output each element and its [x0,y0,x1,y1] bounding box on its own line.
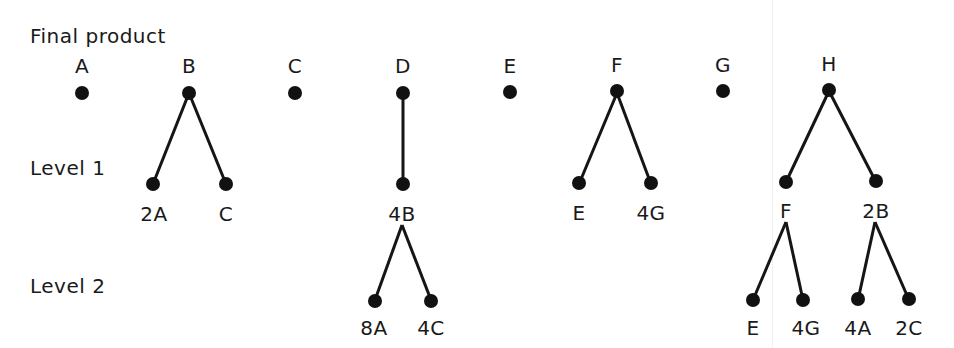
node-label-g: G [715,55,731,75]
edge-2b-4a [858,222,875,300]
edge-b-2a [153,93,189,184]
node-label-e-l2: E [746,318,759,338]
edge-4b-8a [375,225,402,300]
node-label-e: E [503,56,516,76]
node-label-d: D [395,56,411,76]
product-structure-tree: Final product Level 1 Level 2 A B C D E … [0,0,954,348]
node-dot-d [396,86,410,100]
node-label-e-l1: E [572,203,585,223]
node-dot-2b [869,174,883,188]
node-label-c: C [288,56,302,76]
node-label-4a: 4A [844,318,871,338]
node-label-b: B [182,56,196,76]
edge-f1-4g [786,222,803,300]
level-label-level-1: Level 1 [30,158,105,178]
node-label-a: A [75,56,89,76]
node-dot-e [503,85,517,99]
edge-h-f [786,91,829,182]
node-label-4c: 4C [417,318,445,338]
edge-4b-4c [402,225,431,300]
node-label-2c: 2C [895,318,923,338]
node-dot-4c [424,294,438,308]
node-dot-h [822,83,836,97]
level-label-level-2: Level 2 [30,276,105,296]
node-dot-e-l1 [572,176,586,190]
node-dot-b [182,86,196,100]
node-dot-a [75,86,89,100]
edge-h-2b [829,91,876,182]
node-label-h: H [821,54,837,74]
tree-edges-and-nodes [0,0,954,348]
node-dot-4b [396,177,410,191]
node-label-f-l1: F [780,201,792,221]
edge-f-e [579,93,617,184]
node-label-2b: 2B [862,201,889,221]
node-label-2a: 2A [140,204,167,224]
edge-f1-e [753,222,786,300]
node-dot-4g-l1 [644,176,658,190]
node-label-4g-l1: 4G [636,203,665,223]
node-dot-f [610,84,624,98]
node-dot-4g-l2 [796,293,810,307]
level-label-final-product: Final product [30,26,166,46]
node-label-4g-l2: 4G [791,318,820,338]
node-dot-4a [851,292,865,306]
node-label-c-l1: C [219,204,233,224]
node-dot-8a [368,294,382,308]
node-label-f: F [611,55,623,75]
edge-b-c [189,93,226,184]
node-dot-e-l2 [746,293,760,307]
node-dot-2c [902,292,916,306]
node-dot-2a [146,177,160,191]
node-label-4b: 4B [388,204,415,224]
node-dot-g [716,84,730,98]
node-dot-c [288,86,302,100]
edge-2b-2c [875,222,909,300]
node-dot-c-l1 [219,177,233,191]
node-label-8a: 8A [360,318,387,338]
node-dot-f-l1 [779,175,793,189]
edge-f-4g [617,93,651,184]
